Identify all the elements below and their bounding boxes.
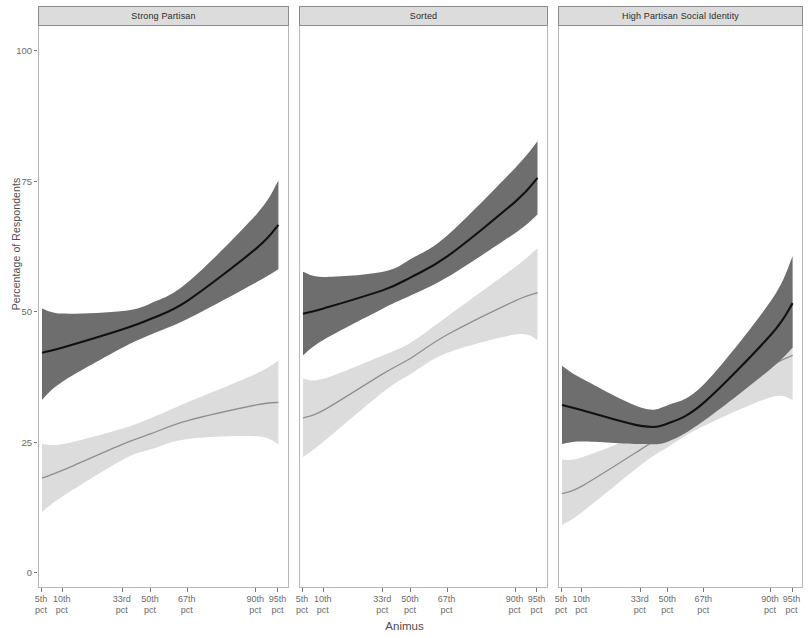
x-tick-label-line1: 10th [40,594,84,605]
x-tick-mark [41,588,42,592]
x-tick-mark [302,588,303,592]
x-tick-label-line1: 67th [165,594,209,605]
y-tick-label: 25 [0,436,32,447]
confidence-band-light [42,361,278,512]
y-tick-label: 0 [0,567,32,578]
panel-plot-area [38,26,289,588]
x-tick-mark [703,588,704,592]
facet-panel-3: High Partisan Social Identity [558,6,803,588]
x-tick-label-line2: pct [681,605,725,616]
x-tick-label: 10thpct [40,594,84,616]
x-tick-mark [561,588,562,592]
y-tick-mark [34,572,37,573]
facet-panel-1: Strong Partisan [38,6,289,588]
x-tick-label-line2: pct [165,605,209,616]
panel-strip-label: Sorted [299,6,548,26]
x-tick-mark [122,588,123,592]
x-tick-mark [187,588,188,592]
x-tick-mark [255,588,256,592]
panel-curves [300,26,548,588]
x-tick-mark [640,588,641,592]
facet-line-chart: Percentage of Respondents 0255075100 Str… [0,0,809,638]
y-tick-label: 100 [0,45,32,56]
panel-strip-label: Strong Partisan [38,6,289,26]
x-tick-label: 95thpct [770,594,809,616]
panel-plot-area [299,26,548,588]
x-tick-mark [667,588,668,592]
x-tick-label: 67thpct [681,594,725,616]
x-tick-mark [323,588,324,592]
x-tick-mark [410,588,411,592]
panel-strip-label: High Partisan Social Identity [558,6,803,26]
y-tick-mark [34,181,37,182]
facet-panel-2: Sorted [299,6,548,588]
x-tick-mark [515,588,516,592]
y-tick-label: 75 [0,175,32,186]
x-tick-label-line1: 95th [770,594,809,605]
x-tick-label-line2: pct [559,605,603,616]
x-tick-mark [150,588,151,592]
y-axis-title: Percentage of Respondents [10,134,22,354]
x-tick-label: 67thpct [425,594,469,616]
x-tick-label: 10thpct [301,594,345,616]
x-tick-mark [536,588,537,592]
confidence-band-dark [42,181,278,400]
y-tick-mark [34,50,37,51]
panel-plot-area [558,26,803,588]
x-tick-label-line2: pct [425,605,469,616]
x-tick-mark [447,588,448,592]
x-tick-label: 67thpct [165,594,209,616]
x-tick-label-line2: pct [40,605,84,616]
x-tick-mark [382,588,383,592]
x-tick-label-line2: pct [770,605,809,616]
x-tick-mark [792,588,793,592]
x-tick-label-line2: pct [301,605,345,616]
y-tick-label: 50 [0,306,32,317]
x-tick-mark [277,588,278,592]
y-tick-mark [34,442,37,443]
x-tick-mark [770,588,771,592]
panel-curves [39,26,289,588]
y-tick-mark [34,311,37,312]
x-axis-title: Animus [0,620,809,632]
x-tick-mark [581,588,582,592]
x-tick-label-line1: 67th [681,594,725,605]
x-tick-label-line1: 67th [425,594,469,605]
x-tick-mark [62,588,63,592]
panel-curves [559,26,803,588]
x-tick-label: 10thpct [559,594,603,616]
x-tick-label-line1: 10th [301,594,345,605]
x-tick-label-line1: 10th [559,594,603,605]
